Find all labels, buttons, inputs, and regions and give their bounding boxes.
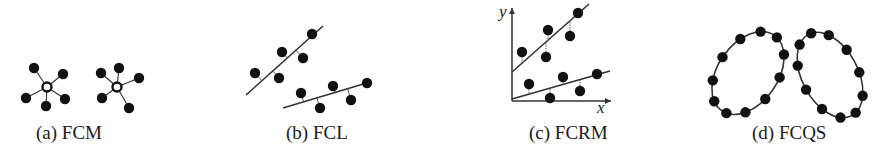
data-point: [854, 67, 864, 77]
data-point: [277, 47, 287, 57]
data-point: [41, 101, 51, 111]
data-point: [850, 107, 860, 117]
data-point: [793, 60, 803, 70]
data-point: [346, 95, 356, 105]
data-point: [709, 96, 719, 106]
data-point: [592, 69, 602, 79]
data-point: [298, 53, 308, 63]
data-point: [134, 73, 144, 83]
data-point: [29, 63, 39, 73]
data-point: [565, 31, 575, 41]
data-point: [779, 49, 789, 59]
data-point: [58, 69, 68, 79]
data-point: [801, 84, 811, 94]
caption-fcl: (b) FCL: [286, 122, 348, 144]
data-point: [573, 8, 583, 18]
caption-fcqs: (d) FCQS: [752, 122, 826, 144]
data-point: [517, 47, 527, 57]
panel-fcl: [246, 26, 372, 113]
data-point: [774, 72, 784, 82]
data-point: [545, 93, 555, 103]
data-point: [575, 86, 585, 96]
data-point: [760, 94, 770, 104]
prototype-line: [283, 82, 370, 108]
data-point: [250, 68, 260, 78]
data-point: [794, 39, 804, 49]
caption-fcm: (a) FCM: [36, 122, 102, 144]
data-point: [558, 72, 568, 82]
data-point: [717, 52, 727, 62]
cluster-center: [43, 83, 52, 92]
y-axis-label: y: [499, 2, 507, 22]
data-point: [274, 73, 284, 83]
data-point: [307, 29, 317, 39]
x-axis-arrow-icon: [605, 98, 611, 104]
caption-fcrm: (c) FCRM: [529, 122, 608, 144]
data-point: [97, 93, 107, 103]
data-point: [362, 78, 372, 88]
data-point: [541, 52, 551, 62]
data-point: [755, 26, 765, 36]
data-point: [296, 88, 306, 98]
data-point: [841, 45, 851, 55]
data-point: [96, 68, 106, 78]
data-point: [543, 25, 553, 35]
y-axis-arrow-icon: [509, 8, 515, 14]
data-point: [835, 112, 845, 122]
data-point: [772, 32, 782, 42]
data-point: [708, 75, 718, 85]
data-point: [735, 34, 745, 44]
data-point: [524, 79, 534, 89]
data-point: [21, 93, 31, 103]
panel-fcrm: [509, 4, 611, 104]
cluster-center: [113, 83, 122, 92]
data-point: [806, 28, 816, 38]
data-point: [114, 63, 124, 73]
x-axis-label: x: [597, 98, 605, 118]
data-point: [315, 103, 325, 113]
data-point: [124, 103, 134, 113]
data-point: [740, 107, 750, 117]
data-point: [721, 108, 731, 118]
data-point: [824, 30, 834, 40]
data-point: [817, 104, 827, 114]
data-point: [60, 94, 70, 104]
panel-fcm: [21, 63, 144, 113]
data-point: [328, 81, 338, 91]
panel-fcqs: [697, 18, 876, 129]
data-point: [857, 91, 867, 101]
